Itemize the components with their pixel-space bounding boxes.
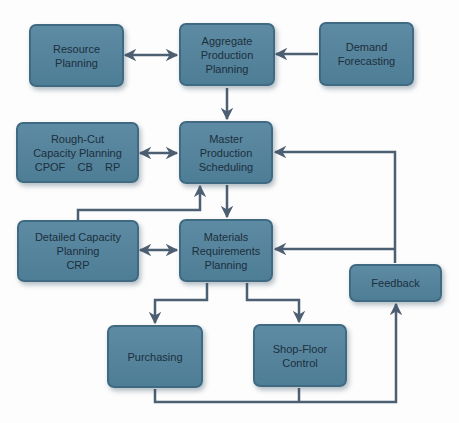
- node-aggregate-production-planning: Aggregate Production Planning: [179, 23, 275, 86]
- edge-feedback-mps: [275, 152, 395, 263]
- node-materials-requirements-planning: Materials Requirements Planning: [179, 219, 273, 282]
- node-label: Requirements: [192, 244, 260, 258]
- node-label: Resource: [53, 42, 100, 56]
- node-label: Aggregate: [202, 34, 253, 48]
- node-shop-floor-control: Shop-Floor Control: [253, 324, 347, 387]
- node-label: Capacity Planning: [33, 146, 122, 160]
- node-label: Planning: [206, 62, 249, 76]
- node-label: Materials: [204, 230, 249, 244]
- node-rough-cut-capacity-planning: Rough-Cut Capacity Planning CPOF CB RP: [16, 122, 139, 183]
- node-resource-planning: Resource Planning: [29, 24, 124, 87]
- node-label: Scheduling: [199, 160, 253, 174]
- production-planning-diagram: Resource Planning Aggregate Production P…: [0, 0, 459, 423]
- node-label: Detailed Capacity: [35, 230, 121, 244]
- node-label: Master: [209, 132, 243, 146]
- node-label: Planning: [55, 56, 98, 70]
- node-label: Demand: [346, 40, 388, 54]
- node-label: Planning: [57, 244, 100, 258]
- node-label: Forecasting: [338, 54, 395, 68]
- edge-detailed-mps: [78, 186, 200, 220]
- node-feedback: Feedback: [349, 264, 442, 302]
- node-sublabel: CRP: [66, 258, 89, 272]
- node-sublabel: CPOF CB RP: [35, 160, 121, 174]
- node-purchasing: Purchasing: [107, 325, 203, 388]
- node-demand-forecasting: Demand Forecasting: [319, 22, 414, 86]
- node-label: Production: [201, 48, 254, 62]
- node-label: Feedback: [371, 276, 419, 290]
- node-label: Control: [282, 356, 317, 370]
- node-master-production-scheduling: Master Production Scheduling: [179, 121, 273, 184]
- node-label: Production: [200, 146, 253, 160]
- edge-mrp-shopfloor: [247, 283, 299, 322]
- edge-mrp-purchasing: [155, 283, 207, 323]
- node-label: Shop-Floor: [273, 342, 327, 356]
- node-label: Planning: [205, 258, 248, 272]
- node-detailed-capacity-planning: Detailed Capacity Planning CRP: [17, 220, 139, 282]
- node-label: Rough-Cut: [51, 132, 104, 146]
- node-label: Purchasing: [127, 350, 182, 364]
